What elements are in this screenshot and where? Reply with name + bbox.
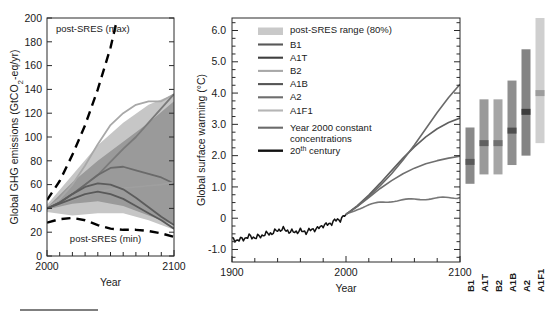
warming-best-estimate-b2 <box>494 140 503 146</box>
legend-label-year-2000-constant: Year 2000 constant <box>290 122 372 133</box>
left-ytick-label: 180 <box>24 36 42 48</box>
legend-label-year-2000-constant-2: concentrations <box>290 133 352 144</box>
warming-bar-label-a1b: A1B <box>507 273 518 292</box>
warming-bar-label-a2: A2 <box>521 280 532 292</box>
right-ytick-label: 6.0 <box>211 24 226 36</box>
left-ytick-label: 40 <box>30 202 42 214</box>
legend-swatch-post-sres-range <box>258 28 283 36</box>
right-series-20th-century <box>232 214 346 242</box>
right-ytick-label: -1.0 <box>208 243 226 255</box>
left-ytick-label: 60 <box>30 178 42 190</box>
warming-best-estimate-a1t <box>480 140 489 146</box>
legend-label-20th-century: 20th century <box>290 144 340 156</box>
legend-label-post-sres-range: post-SRES range (80%) <box>290 24 392 35</box>
left-panel: 02040608010012014016018020020002100YearG… <box>8 12 186 288</box>
right-ytick-label: 3.0 <box>211 118 226 130</box>
warming-bar-b1 <box>466 127 475 183</box>
left-yaxis-title: Global GHG emissions (GtCO2-eq/yr) <box>8 50 25 225</box>
left-ytick-label: 100 <box>24 131 42 143</box>
post-sres-min-label: post-SRES (min) <box>70 233 141 244</box>
scenario-warming-bars: B1A1TB2A1BA2A1F1 <box>465 18 546 292</box>
legend-label-a2: A2 <box>290 91 302 102</box>
warming-bar-label-b2: B2 <box>493 280 504 292</box>
legend-label-a1b: A1B <box>290 78 308 89</box>
right-series-b1 <box>346 156 460 214</box>
right-ytick-label: 0 <box>220 212 226 224</box>
warming-bar-a1t <box>480 99 489 174</box>
left-ytick-label: 120 <box>24 107 42 119</box>
post-sres-max-label: post-SRES (max) <box>56 23 130 34</box>
right-ytick-label: 5.0 <box>211 55 226 67</box>
left-ytick-label: 20 <box>30 226 42 238</box>
legend-label-a1t: A1T <box>290 52 308 63</box>
right-ytick-label: 1.0 <box>211 181 226 193</box>
warming-bar-a1b <box>508 81 517 165</box>
right-xtick-label: 2100 <box>448 266 472 278</box>
warming-bar-label-a1t: A1T <box>479 274 490 292</box>
right-xtick-label: 2000 <box>334 266 358 278</box>
left-xtick-label: 2000 <box>35 260 59 272</box>
warming-best-estimate-b1 <box>466 159 475 165</box>
warming-best-estimate-a1b <box>508 128 517 134</box>
legend-label-a1f1: A1F1 <box>290 105 313 116</box>
right-ytick-label: 2.0 <box>211 149 226 161</box>
right-xaxis-title: Year <box>335 282 357 294</box>
figure-root: 02040608010012014016018020020002100YearG… <box>0 0 553 317</box>
warming-bar-label-b1: B1 <box>465 279 476 292</box>
warming-best-estimate-a1f1 <box>536 90 545 96</box>
left-ytick-label: 80 <box>30 155 42 167</box>
left-ytick-label: 160 <box>24 59 42 71</box>
legend-label-b1: B1 <box>290 39 302 50</box>
left-ytick-label: 200 <box>24 12 42 24</box>
right-series-a2 <box>346 84 460 214</box>
warming-best-estimate-a2 <box>522 109 531 115</box>
right-xtick-label: 1900 <box>220 266 244 278</box>
legend-label-b2: B2 <box>290 65 302 76</box>
left-xaxis-title: Year <box>100 276 122 288</box>
figure-canvas: 02040608010012014016018020020002100YearG… <box>0 0 553 317</box>
left-xtick-label: 2100 <box>162 260 186 272</box>
right-panel: -1.001.02.03.04.05.06.0190020002100YearG… <box>195 18 472 294</box>
warming-bar-a2 <box>522 49 531 155</box>
right-yaxis-title: Global surface warming (°C) <box>195 74 207 206</box>
warming-bar-label-a1f1: A1F1 <box>535 268 546 292</box>
left-ytick-label: 140 <box>24 83 42 95</box>
legend: post-SRES range (80%)B1A1TB2A1BA2A1F1Yea… <box>258 24 392 156</box>
right-ytick-label: 4.0 <box>211 87 226 99</box>
warming-bar-a1f1 <box>536 18 545 143</box>
warming-bar-b2 <box>494 99 503 174</box>
